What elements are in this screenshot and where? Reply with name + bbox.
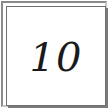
number-card: 10 bbox=[6, 6, 106, 106]
card-number: 10 bbox=[30, 37, 83, 77]
